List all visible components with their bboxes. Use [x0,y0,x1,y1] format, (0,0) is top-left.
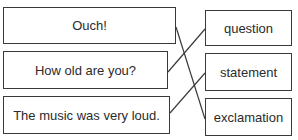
left-item-music[interactable]: The music was very loud. [3,96,170,134]
left-item-label: How old are you? [35,63,136,78]
left-item-label: The music was very loud. [13,108,160,123]
left-item-how-old[interactable]: How old are you? [3,51,168,89]
right-item-label: question [224,21,273,36]
right-item-question[interactable]: question [205,10,292,46]
match-line-music-statement [170,73,205,113]
right-item-statement[interactable]: statement [205,53,292,91]
right-item-label: exclamation [214,110,283,125]
right-item-label: statement [220,65,277,80]
left-item-label: Ouch! [72,18,107,33]
left-item-ouch[interactable]: Ouch! [3,7,176,44]
right-item-exclamation[interactable]: exclamation [205,98,292,136]
match-line-ouch-exclamation [176,27,205,119]
